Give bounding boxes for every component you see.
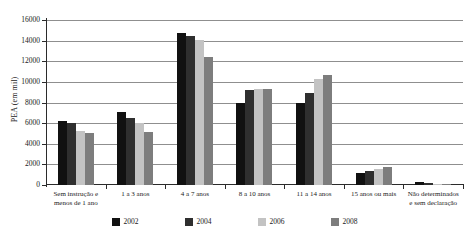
x-axis-tick — [225, 184, 226, 189]
bar-2006 — [314, 79, 323, 185]
legend-swatch-icon — [331, 218, 339, 226]
x-axis-tick — [344, 184, 345, 189]
x-axis-category-label: 1 a 3 anos — [106, 190, 166, 199]
legend-swatch-icon — [185, 218, 193, 226]
bar-2008 — [263, 89, 272, 185]
y-axis-tick — [42, 61, 47, 62]
bar-2002 — [296, 103, 305, 185]
x-axis-tick — [463, 184, 464, 189]
legend-item-2002[interactable]: 2002 — [112, 218, 139, 226]
bar-group — [403, 182, 463, 185]
bar-2004 — [305, 93, 314, 185]
y-axis-tick-label: 6000 — [6, 119, 40, 127]
bar-2008 — [144, 132, 153, 185]
x-axis-category-label: 8 a 10 anos — [225, 190, 285, 199]
bar-2008 — [323, 75, 332, 185]
plot-area: 0200040006000800010000120001400016000 — [46, 20, 463, 185]
bar-2004 — [365, 171, 374, 185]
x-axis-category-label: 11 a 14 anos — [284, 190, 344, 199]
y-axis-tick-label: 2000 — [6, 160, 40, 168]
y-axis-tick-label: 0 — [6, 181, 40, 189]
x-axis-category-label: 4 a 7 anos — [165, 190, 225, 199]
x-axis-category-label: 15 anos ou mais — [344, 190, 404, 199]
bar-2002 — [117, 112, 126, 185]
bar-2004 — [424, 183, 433, 185]
bar-group — [225, 89, 285, 185]
y-axis-tick-label: 14000 — [6, 37, 40, 45]
bar-2008 — [85, 133, 94, 185]
bar-2006 — [135, 123, 144, 185]
bar-2006 — [76, 131, 85, 185]
bar-2006 — [433, 184, 442, 185]
y-axis-tick — [42, 82, 47, 83]
legend-label: 2004 — [197, 218, 212, 226]
y-axis-tick — [42, 20, 47, 21]
y-axis-tick-label: 8000 — [6, 99, 40, 107]
x-axis-tick — [106, 184, 107, 189]
y-axis-tick-label: 12000 — [6, 57, 40, 65]
y-axis-tick — [42, 103, 47, 104]
bar-2006 — [195, 40, 204, 185]
y-axis-tick-label: 4000 — [6, 140, 40, 148]
bar-2002 — [356, 173, 365, 185]
bar-2002 — [58, 121, 67, 185]
gridline — [46, 61, 463, 62]
y-axis-tick — [42, 41, 47, 42]
bar-2008 — [204, 57, 213, 185]
x-axis-tick — [165, 184, 166, 189]
x-axis-tick — [284, 184, 285, 189]
legend-item-2006[interactable]: 2006 — [258, 218, 285, 226]
bar-group — [106, 112, 166, 185]
bar-2008 — [442, 184, 451, 185]
legend-label: 2008 — [343, 218, 358, 226]
bar-2002 — [236, 103, 245, 186]
chart-legend: 2002200420062008 — [0, 218, 469, 226]
bar-chart: PEA (em mil) 020004000600080001000012000… — [0, 0, 469, 241]
y-axis-tick-label: 10000 — [6, 78, 40, 86]
x-axis-tick — [403, 184, 404, 189]
bar-2006 — [254, 89, 263, 185]
bar-group — [165, 33, 225, 185]
bar-2004 — [67, 123, 76, 185]
legend-item-2008[interactable]: 2008 — [331, 218, 358, 226]
bar-2002 — [177, 33, 186, 185]
legend-swatch-icon — [112, 218, 120, 226]
legend-swatch-icon — [258, 218, 266, 226]
legend-label: 2006 — [270, 218, 285, 226]
legend-item-2004[interactable]: 2004 — [185, 218, 212, 226]
bar-2008 — [383, 167, 392, 185]
bar-2006 — [374, 169, 383, 185]
bar-2004 — [186, 36, 195, 185]
x-axis-category-label: Não determinadose sem declaração — [403, 190, 463, 207]
bar-2002 — [415, 182, 424, 185]
legend-label: 2002 — [124, 218, 139, 226]
gridline — [46, 82, 463, 83]
bar-2004 — [126, 118, 135, 185]
bar-group — [46, 121, 106, 185]
bar-2004 — [245, 90, 254, 185]
y-axis-tick — [42, 185, 47, 186]
bar-group — [344, 167, 404, 185]
gridline — [46, 20, 463, 21]
bar-group — [284, 75, 344, 185]
gridline — [46, 41, 463, 42]
y-axis-tick-label: 16000 — [6, 16, 40, 24]
x-axis-category-label: Sem instrução emenos de 1 ano — [46, 190, 106, 207]
